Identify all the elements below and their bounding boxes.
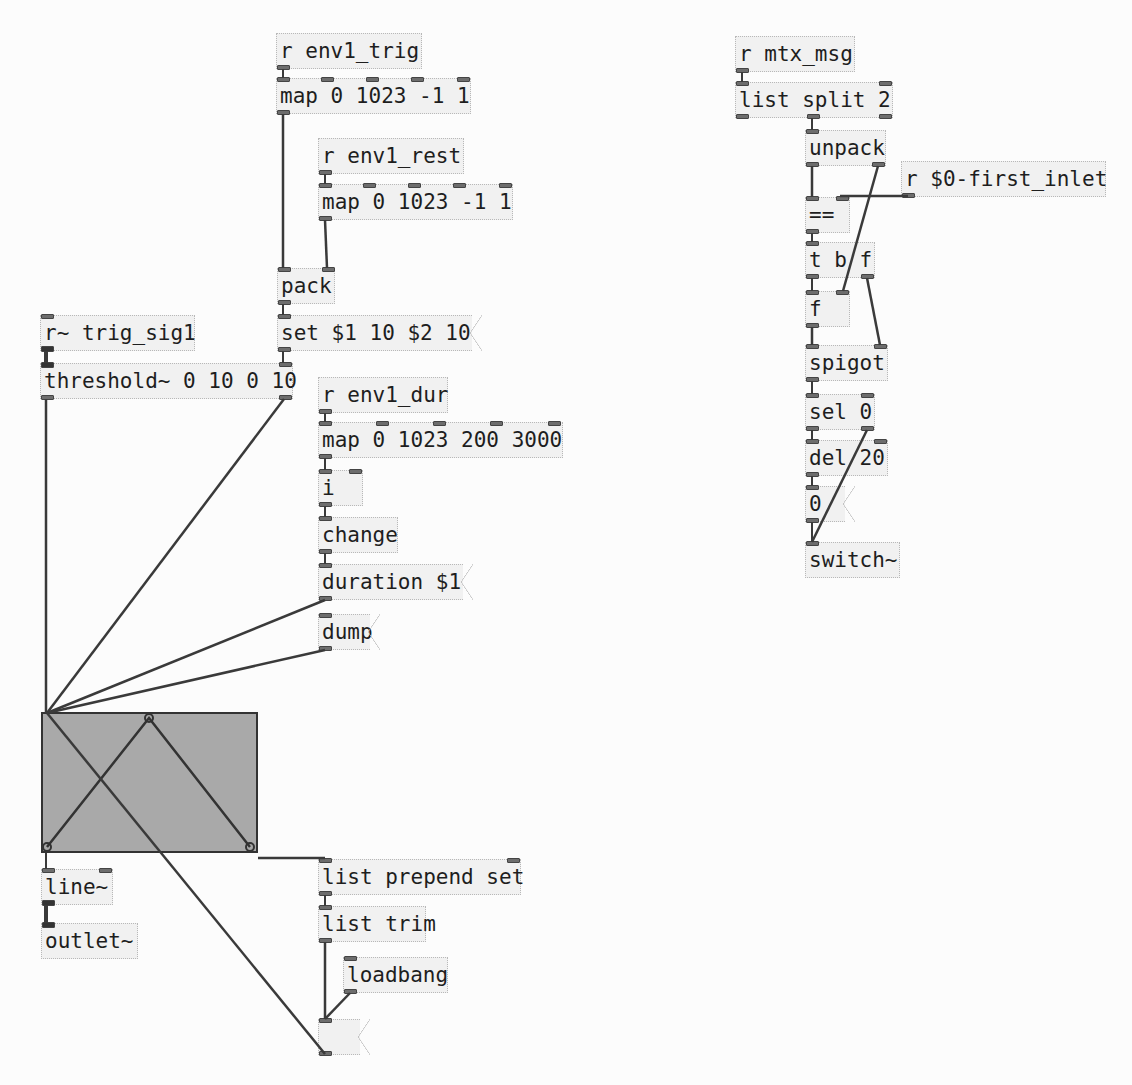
outlet-port[interactable] bbox=[41, 395, 54, 400]
outlet-port[interactable] bbox=[319, 502, 332, 507]
object-change[interactable]: change bbox=[318, 517, 398, 553]
message-set[interactable]: set $1 10 $2 10 bbox=[277, 315, 472, 351]
object-sel[interactable]: sel 0 bbox=[805, 394, 875, 430]
outlet-port[interactable] bbox=[319, 454, 332, 459]
inlet-port[interactable] bbox=[319, 421, 332, 426]
object-spigot[interactable]: spigot bbox=[805, 345, 888, 381]
inlet-port[interactable] bbox=[319, 563, 332, 568]
object-r-first-inlet[interactable]: r $0-first_inlet bbox=[901, 161, 1106, 197]
inlet-port[interactable] bbox=[453, 183, 466, 188]
object-r-env1-trig[interactable]: r env1_trig bbox=[276, 33, 422, 69]
inlet-port[interactable] bbox=[457, 77, 470, 82]
outlet-port[interactable] bbox=[319, 216, 332, 221]
message-duration[interactable]: duration $1 bbox=[318, 564, 463, 600]
inlet-port[interactable] bbox=[322, 267, 335, 272]
object-loadbang[interactable]: loadbang bbox=[343, 957, 448, 993]
outlet-port[interactable] bbox=[279, 395, 292, 400]
object-line[interactable]: line~ bbox=[41, 869, 113, 905]
outlet-port[interactable] bbox=[807, 114, 820, 119]
pd-patch-canvas[interactable]: r env1_trig map 0 1023 -1 1 r env1_rest … bbox=[0, 0, 1132, 1085]
object-float[interactable]: f bbox=[805, 291, 850, 327]
object-equals[interactable]: == bbox=[805, 197, 850, 233]
inlet-port[interactable] bbox=[349, 469, 362, 474]
inlet-port[interactable] bbox=[806, 290, 819, 295]
object-map-trig[interactable]: map 0 1023 -1 1 bbox=[276, 78, 471, 114]
inlet-port[interactable] bbox=[344, 956, 357, 961]
outlet-port[interactable] bbox=[806, 162, 819, 167]
signal-outlet-port[interactable] bbox=[41, 346, 54, 352]
outlet-port[interactable] bbox=[278, 347, 291, 352]
object-map-rest[interactable]: map 0 1023 -1 1 bbox=[318, 184, 513, 220]
inlet-port[interactable] bbox=[806, 541, 819, 546]
outlet-port[interactable] bbox=[319, 938, 332, 943]
outlet-port[interactable] bbox=[736, 114, 749, 119]
inlet-port[interactable] bbox=[363, 183, 376, 188]
inlet-port[interactable] bbox=[874, 344, 887, 349]
envelope-graph[interactable] bbox=[41, 712, 258, 853]
inlet-port[interactable] bbox=[806, 196, 819, 201]
outlet-port[interactable] bbox=[319, 891, 332, 896]
inlet-port[interactable] bbox=[806, 439, 819, 444]
object-list-split[interactable]: list split 2 bbox=[735, 82, 893, 118]
signal-inlet-port[interactable] bbox=[42, 922, 55, 928]
inlet-port[interactable] bbox=[411, 77, 424, 82]
inlet-port[interactable] bbox=[490, 421, 503, 426]
object-int[interactable]: i bbox=[318, 470, 363, 506]
inlet-port[interactable] bbox=[433, 421, 446, 426]
outlet-port[interactable] bbox=[806, 323, 819, 328]
object-pack[interactable]: pack bbox=[277, 268, 335, 304]
object-r-trig-sig1[interactable]: r~ trig_sig1 bbox=[40, 315, 195, 351]
inlet-port[interactable] bbox=[806, 393, 819, 398]
outlet-port[interactable] bbox=[806, 472, 819, 477]
inlet-port[interactable] bbox=[279, 362, 292, 367]
outlet-port[interactable] bbox=[806, 229, 819, 234]
inlet-port[interactable] bbox=[736, 81, 749, 86]
object-r-env1-dur[interactable]: r env1_dur bbox=[318, 377, 448, 413]
inlet-port[interactable] bbox=[99, 868, 112, 873]
inlet-port[interactable] bbox=[366, 77, 379, 82]
inlet-port[interactable] bbox=[806, 129, 819, 134]
outlet-port[interactable] bbox=[806, 377, 819, 382]
outlet-port[interactable] bbox=[319, 409, 332, 414]
inlet-port[interactable] bbox=[319, 516, 332, 521]
object-switch[interactable]: switch~ bbox=[805, 542, 900, 578]
outlet-port[interactable] bbox=[806, 426, 819, 431]
message-zero[interactable]: 0 bbox=[805, 486, 845, 522]
inlet-port[interactable] bbox=[41, 314, 54, 319]
inlet-port[interactable] bbox=[806, 241, 819, 246]
inlet-port[interactable] bbox=[376, 421, 389, 426]
outlet-port[interactable] bbox=[319, 646, 332, 651]
inlet-port[interactable] bbox=[836, 196, 849, 201]
inlet-port[interactable] bbox=[499, 183, 512, 188]
inlet-port[interactable] bbox=[806, 485, 819, 490]
outlet-port[interactable] bbox=[319, 596, 332, 601]
outlet-port[interactable] bbox=[902, 193, 915, 198]
object-unpack[interactable]: unpack bbox=[805, 130, 886, 166]
outlet-port[interactable] bbox=[861, 426, 874, 431]
object-del[interactable]: del 20 bbox=[805, 440, 888, 476]
inlet-port[interactable] bbox=[861, 393, 874, 398]
message-empty[interactable] bbox=[318, 1019, 360, 1055]
outlet-port[interactable] bbox=[277, 65, 290, 70]
inlet-port[interactable] bbox=[879, 81, 892, 86]
object-outlet[interactable]: outlet~ bbox=[41, 923, 138, 959]
inlet-port[interactable] bbox=[321, 77, 334, 82]
signal-inlet-port[interactable] bbox=[41, 362, 54, 368]
inlet-port[interactable] bbox=[836, 290, 849, 295]
outlet-port[interactable] bbox=[879, 114, 892, 119]
inlet-port[interactable] bbox=[319, 469, 332, 474]
inlet-port[interactable] bbox=[874, 439, 887, 444]
outlet-port[interactable] bbox=[736, 68, 749, 73]
outlet-port[interactable] bbox=[277, 110, 290, 115]
outlet-port[interactable] bbox=[861, 274, 874, 279]
inlet-port[interactable] bbox=[507, 858, 520, 863]
inlet-port[interactable] bbox=[278, 267, 291, 272]
inlet-port[interactable] bbox=[806, 344, 819, 349]
inlet-port[interactable] bbox=[277, 77, 290, 82]
object-r-mtx-msg[interactable]: r mtx_msg bbox=[735, 36, 855, 72]
outlet-port[interactable] bbox=[319, 170, 332, 175]
outlet-port[interactable] bbox=[319, 1051, 332, 1056]
inlet-port[interactable] bbox=[319, 183, 332, 188]
object-threshold[interactable]: threshold~ 0 10 0 10 bbox=[40, 363, 293, 399]
inlet-port[interactable] bbox=[548, 421, 561, 426]
